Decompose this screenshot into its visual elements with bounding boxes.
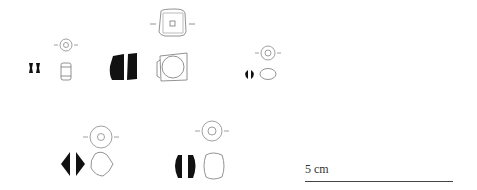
bead-1-top-view <box>54 39 78 51</box>
bead-drawings <box>0 0 477 190</box>
bead-4 <box>61 126 119 176</box>
bead-2-section-view <box>110 53 137 80</box>
bead-5-section-view <box>175 155 196 178</box>
bead-3-section-view <box>245 70 254 79</box>
bead-4-section-view <box>61 152 85 176</box>
bead-3-top-view <box>255 46 281 60</box>
bead-3-profile-view <box>260 69 276 80</box>
bead-5-profile-view <box>204 153 224 179</box>
bead-2 <box>110 9 195 81</box>
scale-label: 5 cm <box>305 162 329 177</box>
bead-1-profile-view <box>61 63 71 80</box>
bead-1-section-view <box>29 63 40 73</box>
bead-2-profile-view <box>157 53 187 81</box>
bead-2-top-view <box>150 9 195 36</box>
bead-4-profile-view <box>91 152 113 176</box>
bead-5-top-view <box>195 121 229 141</box>
bead-3 <box>245 46 281 80</box>
bead-4-top-view <box>83 126 119 148</box>
scale-bar <box>305 181 453 182</box>
bead-5 <box>175 121 229 179</box>
bead-1 <box>29 39 78 80</box>
